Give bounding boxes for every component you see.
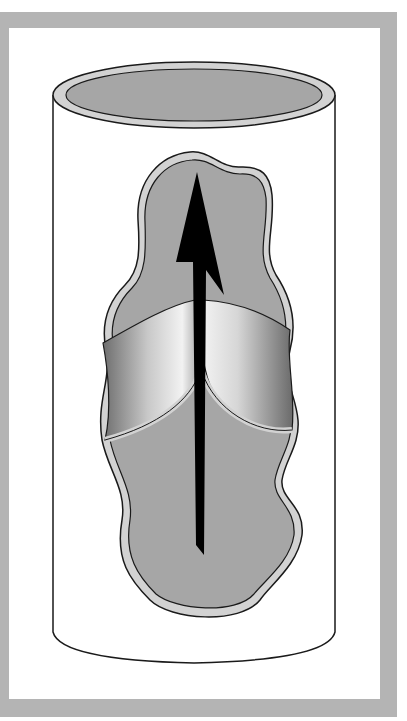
vein-lumen-opening [66, 69, 322, 121]
vein-valve-diagram [0, 0, 407, 721]
